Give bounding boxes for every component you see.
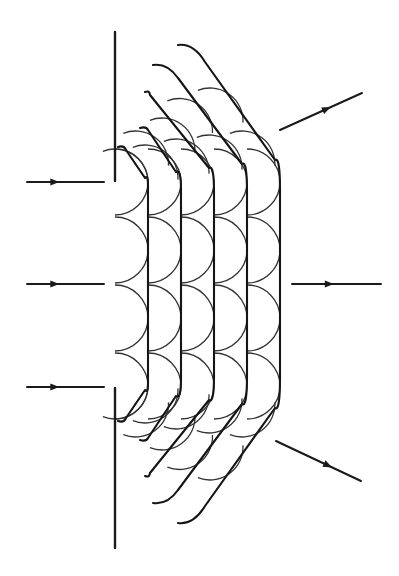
huygens-wavelet-edge <box>103 384 148 419</box>
huygens-wavelet-edge <box>230 131 275 166</box>
arrowhead-icon <box>321 107 331 114</box>
wavefront-5-lower <box>178 284 280 523</box>
incident-ray-arrow <box>27 178 104 185</box>
wavefront-1-upper <box>118 146 148 284</box>
huygens-wavelet <box>115 217 148 283</box>
diffracted-rays <box>276 93 381 481</box>
huygens-wavelet <box>181 217 214 283</box>
ray-line <box>280 93 362 130</box>
huygens-wavelet-edge <box>103 149 148 184</box>
arrowhead-icon <box>50 383 59 390</box>
ray-line <box>276 441 361 481</box>
huygens-wavelet <box>148 285 181 351</box>
arrowhead-icon <box>325 280 334 287</box>
huygens-wavelet-edge <box>197 135 242 170</box>
huygens-wavelet <box>148 149 181 215</box>
huygens-wavelet-edge <box>123 131 168 166</box>
diffracted-ray-arrow <box>292 280 381 287</box>
huygens-wavelet <box>247 217 280 283</box>
diffracted-ray-arrow <box>276 441 361 481</box>
arrowhead-icon <box>50 178 59 185</box>
arrowhead-icon <box>50 280 59 287</box>
wavefront-5-upper <box>178 45 280 284</box>
huygens-wavelet <box>214 353 247 419</box>
wavefront-3-upper <box>145 91 214 284</box>
diffracted-ray-arrow <box>280 93 362 130</box>
huygens-wavelet <box>214 285 247 351</box>
huygens-wavelet <box>214 149 247 215</box>
arrowhead-icon <box>322 460 332 467</box>
huygens-wavelet <box>181 149 214 215</box>
huygens-wavelet-edge <box>197 398 242 433</box>
incident-ray-arrow <box>27 280 104 287</box>
huygens-wavelet <box>214 217 247 283</box>
huygens-wavelet <box>247 285 280 351</box>
wavefront-3-lower <box>145 284 214 477</box>
wavefronts <box>118 45 280 523</box>
incident-rays <box>27 178 104 390</box>
huygens-wavelet-edge <box>123 402 168 437</box>
huygens-wavelet-edge <box>230 402 275 437</box>
huygens-wavelet <box>181 285 214 351</box>
incident-ray-arrow <box>27 383 104 390</box>
wavefront-1-lower <box>118 284 148 422</box>
diffraction-diagram: Huygens wavelet construction of diffract… <box>0 0 399 576</box>
huygens-wavelet <box>148 217 181 283</box>
huygens-wavelet <box>115 285 148 351</box>
huygens-wavelet <box>148 353 181 419</box>
huygens-wavelet <box>181 353 214 419</box>
